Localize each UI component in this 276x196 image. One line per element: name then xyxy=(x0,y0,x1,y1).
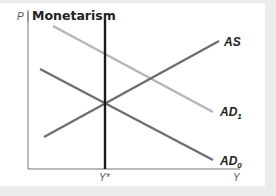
ad1-label-sub: 1 xyxy=(237,112,242,121)
monetarism-diagram: P Monetarism AS AD1 AD0 Y* Y xyxy=(0,0,276,196)
ad0-label-main: AD xyxy=(219,154,238,168)
ad1-curve xyxy=(53,26,213,112)
ad1-label: AD1 xyxy=(219,105,242,121)
as-curve xyxy=(44,41,219,137)
y-axis-label: P xyxy=(17,11,24,22)
ad0-label: AD0 xyxy=(219,154,242,170)
x-axis-label: Y xyxy=(233,172,241,183)
potential-output-label: Y* xyxy=(99,172,111,183)
as-label: AS xyxy=(223,35,241,49)
ad0-curve xyxy=(40,69,213,160)
as-label-main: AS xyxy=(223,35,241,49)
ad1-label-main: AD xyxy=(219,105,238,119)
ad0-label-sub: 0 xyxy=(237,161,242,170)
diagram-title: Monetarism xyxy=(32,8,116,23)
